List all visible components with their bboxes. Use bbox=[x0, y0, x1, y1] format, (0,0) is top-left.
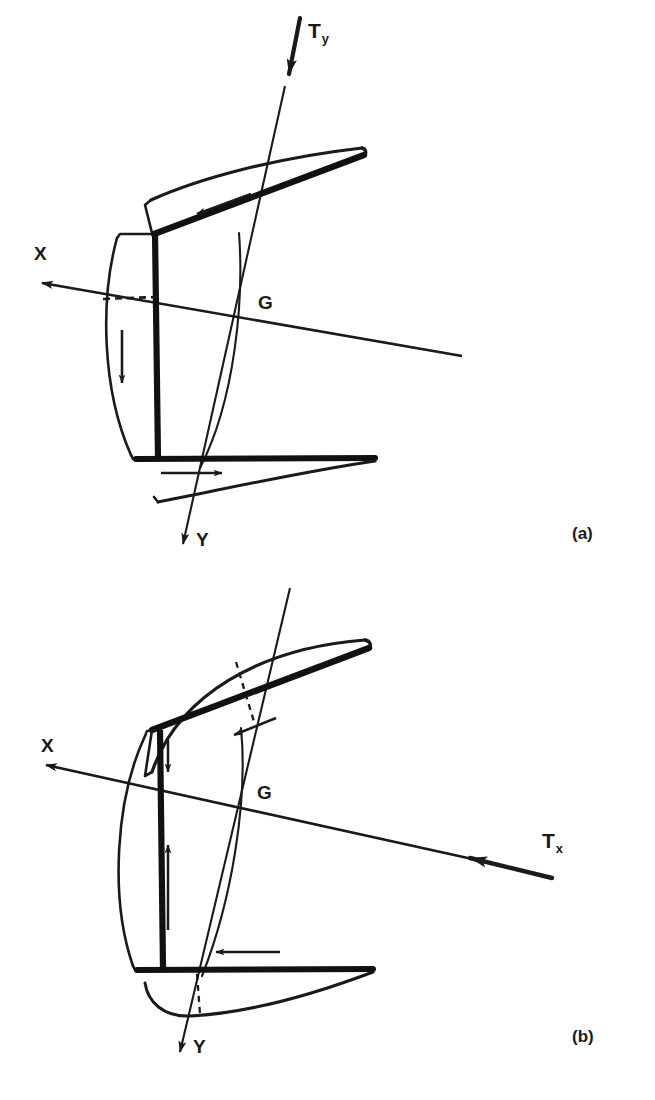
panel-caption-b: (b) bbox=[572, 1028, 594, 1045]
panel-a: X Y G Ty bbox=[0, 0, 655, 560]
point-label-g-a: G bbox=[258, 293, 273, 312]
panel-a-drawing bbox=[0, 0, 655, 560]
axis-label-y-b: Y bbox=[193, 1037, 206, 1056]
panel-b-drawing bbox=[0, 540, 655, 1100]
lower-blade-b bbox=[137, 952, 373, 1016]
upper-blade-b bbox=[145, 640, 370, 776]
axis-label-x-b: X bbox=[41, 736, 54, 755]
torque-label-ty: Ty bbox=[308, 20, 328, 41]
axis-y-line-a bbox=[183, 86, 285, 544]
panel-caption-a: (a) bbox=[572, 525, 593, 542]
figure-root: X Y G Ty bbox=[0, 0, 655, 1100]
axis-label-x-a: X bbox=[34, 244, 47, 263]
point-label-g-b: G bbox=[257, 783, 272, 802]
hub-body-a bbox=[103, 232, 240, 468]
torque-ty-arrow bbox=[289, 18, 300, 74]
x-axis-reference-dash-a bbox=[103, 297, 157, 299]
torque-ty-base: T bbox=[308, 19, 321, 42]
torque-tx-subscript: x bbox=[556, 841, 563, 856]
panel-b: X Y G Tx bbox=[0, 540, 655, 1100]
axis-x-line-b bbox=[46, 765, 495, 864]
torque-label-tx: Tx bbox=[542, 830, 562, 851]
torque-tx-base: T bbox=[542, 829, 555, 852]
lower-blade-a bbox=[136, 458, 375, 502]
hub-body-b bbox=[119, 728, 243, 976]
torque-ty-subscript: y bbox=[322, 31, 329, 46]
torque-tx-arrow bbox=[470, 858, 552, 878]
